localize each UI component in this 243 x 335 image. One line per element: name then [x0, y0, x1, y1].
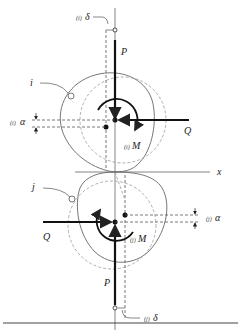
top-M-prefix: (i) [124, 144, 130, 151]
bottom-delta-label: δ [153, 312, 158, 323]
top-load-point [113, 28, 117, 32]
top-M-moment-arrow [98, 99, 138, 130]
top-alpha-prefix: (i) [10, 120, 16, 127]
top-alpha-label: α [20, 116, 26, 127]
top-P-label: P [120, 46, 127, 57]
body-j-marker [69, 196, 75, 202]
body-i-marker [68, 93, 74, 99]
bottom-load-point [113, 306, 117, 310]
bottom-alpha-label: α [215, 212, 221, 223]
top-delta-leader [93, 17, 108, 24]
body-i-leader [40, 83, 68, 93]
body-j-leader [43, 188, 70, 197]
top-Q-label: Q [184, 125, 192, 136]
top-delta-prefix: (i) [76, 15, 82, 22]
top-delta-label: δ [85, 11, 90, 22]
contact-guide [115, 172, 125, 200]
body-j-label: j [30, 181, 35, 192]
x-axis-label: x [216, 166, 222, 177]
bottom-alpha-prefix: (j) [206, 216, 212, 223]
bottom-M-label: M [137, 233, 147, 244]
top-M-label: M [131, 140, 141, 151]
contact-mechanics-diagram: x (i) δ P Q (i) M (i) α i j Q [0, 0, 243, 335]
body-i-outline [60, 73, 154, 172]
bottom-M-prefix: (j) [130, 237, 136, 244]
body-j-outline [77, 172, 166, 262]
body-i-label: i [30, 77, 33, 88]
bottom-Q-label: Q [43, 231, 51, 242]
bottom-P-label: P [103, 277, 110, 288]
bottom-delta-prefix: (j) [144, 316, 150, 323]
